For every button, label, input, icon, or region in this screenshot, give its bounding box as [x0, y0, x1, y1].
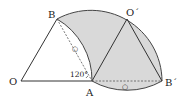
segment-OB — [21, 19, 57, 81]
angle-label: 120° — [70, 70, 88, 79]
equal-mark-BA: ○ — [72, 45, 78, 53]
label-B: B — [48, 9, 55, 20]
label-O-prime: O´ — [126, 7, 139, 18]
label-B-prime: B´ — [165, 77, 177, 88]
equal-mark-AB-prime: ○ — [122, 83, 128, 91]
label-A: A — [85, 87, 94, 98]
rotation-diagram: O A B O´ B´ 120° ○ ○ — [0, 0, 182, 99]
label-O: O — [9, 76, 17, 87]
